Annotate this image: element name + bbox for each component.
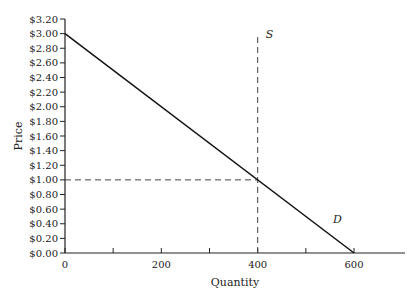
y-axis-ticks: $0.00$0.20$0.40$0.60$0.80$1.00$1.20$1.40…: [29, 14, 65, 259]
y-tick-label: $1.40: [29, 145, 58, 156]
supply-demand-chart: $0.00$0.20$0.40$0.60$0.80$1.00$1.20$1.40…: [0, 0, 418, 300]
y-tick-label: $3.00: [29, 28, 58, 39]
y-tick-label: $0.80: [29, 189, 58, 200]
y-tick-label: $0.00: [29, 248, 58, 259]
x-tick-label: 600: [344, 259, 363, 270]
y-tick-label: $2.60: [29, 57, 58, 68]
demand-curve: [65, 34, 354, 253]
x-tick-label: 400: [248, 259, 267, 270]
y-tick-label: $2.40: [29, 72, 58, 83]
y-tick-label: $0.60: [29, 204, 58, 215]
y-tick-label: $2.80: [29, 43, 58, 54]
demand-label: D: [332, 213, 342, 226]
y-tick-label: $0.20: [29, 233, 58, 244]
x-axis-title: Quantity: [211, 276, 260, 289]
x-axis-ticks: 0200400600: [62, 248, 364, 270]
y-tick-label: $0.40: [29, 218, 58, 229]
y-tick-label: $1.60: [29, 131, 58, 142]
y-axis-title: Price: [12, 122, 25, 151]
y-tick-label: $1.20: [29, 160, 58, 171]
y-tick-label: $1.00: [29, 174, 58, 185]
x-tick-label: 0: [62, 259, 68, 270]
x-tick-label: 200: [152, 259, 171, 270]
supply-label: S: [266, 28, 274, 41]
y-tick-label: $3.20: [29, 14, 58, 25]
y-tick-label: $2.00: [29, 101, 58, 112]
y-tick-label: $2.20: [29, 87, 58, 98]
y-tick-label: $1.80: [29, 116, 58, 127]
